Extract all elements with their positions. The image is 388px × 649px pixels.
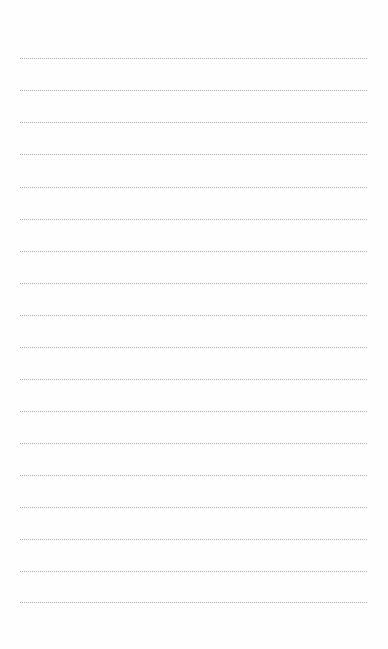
ruled-line xyxy=(20,154,367,155)
ruled-line xyxy=(20,539,367,540)
ruled-line xyxy=(20,443,367,444)
ruled-line xyxy=(20,411,367,412)
ruled-line xyxy=(20,571,367,572)
ruled-line xyxy=(20,58,367,59)
ruled-line xyxy=(20,90,367,91)
ruled-line xyxy=(20,187,367,188)
ruled-line xyxy=(20,475,367,476)
ruled-line xyxy=(20,347,367,348)
ruled-line xyxy=(20,602,367,603)
ruled-line xyxy=(20,251,367,252)
ruled-line xyxy=(20,219,367,220)
lined-page xyxy=(0,0,388,649)
ruled-line xyxy=(20,122,367,123)
ruled-line xyxy=(20,283,367,284)
ruled-line xyxy=(20,315,367,316)
ruled-line xyxy=(20,379,367,380)
ruled-line xyxy=(20,507,367,508)
